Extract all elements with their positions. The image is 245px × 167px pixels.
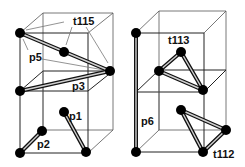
node bbox=[59, 47, 69, 57]
node bbox=[37, 126, 47, 136]
left-nodes bbox=[15, 28, 115, 158]
node bbox=[81, 147, 91, 157]
left-cube bbox=[20, 13, 113, 153]
node bbox=[15, 28, 25, 38]
label-p6: p6 bbox=[141, 115, 154, 127]
node bbox=[131, 147, 141, 157]
label-p3: p3 bbox=[72, 80, 85, 92]
t115-pointer-line bbox=[86, 27, 108, 63]
right-cube-depth-edge bbox=[204, 11, 226, 33]
node bbox=[176, 105, 186, 115]
label-t112: t112 bbox=[213, 148, 234, 160]
label-t113: t113 bbox=[168, 34, 189, 46]
left-cube-depth-edge bbox=[88, 130, 113, 153]
node bbox=[198, 85, 208, 95]
node bbox=[59, 107, 69, 117]
p5-pointer-line bbox=[23, 39, 28, 50]
cube-diagram: t115 p5 p3 p1 p2 bbox=[0, 0, 245, 167]
node bbox=[15, 148, 25, 158]
t115-pointer-line bbox=[66, 27, 72, 45]
node bbox=[198, 147, 208, 157]
label-p1: p1 bbox=[69, 110, 82, 122]
node bbox=[15, 86, 25, 96]
node bbox=[221, 125, 231, 135]
node bbox=[131, 28, 141, 38]
label-t115: t115 bbox=[73, 15, 94, 27]
node bbox=[176, 47, 186, 57]
node bbox=[105, 66, 115, 76]
label-p2: p2 bbox=[37, 138, 50, 150]
right-labels: t113 p6 t112 bbox=[141, 34, 234, 160]
node bbox=[154, 66, 164, 76]
label-p5: p5 bbox=[29, 51, 42, 63]
